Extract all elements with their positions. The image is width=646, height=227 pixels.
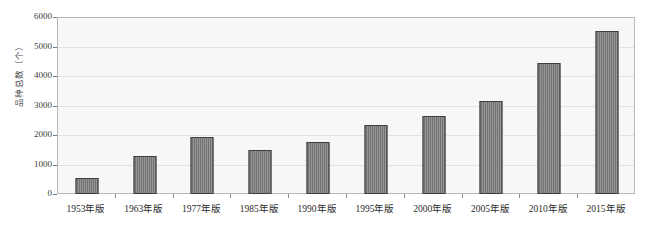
y-axis-tick-mark — [53, 165, 57, 166]
y-axis-tick-label: 0 — [0, 188, 52, 198]
y-axis-tick-mark — [53, 47, 57, 48]
y-axis-tick-label: 5000 — [0, 41, 52, 51]
bar-slot — [578, 18, 636, 194]
y-axis-tick-mark — [53, 106, 57, 107]
y-axis-tick-label: 2000 — [0, 129, 52, 139]
bar — [596, 31, 619, 194]
x-axis-tick-mark — [519, 194, 520, 198]
y-axis-tick-label: 4000 — [0, 70, 52, 80]
bar-slot — [520, 18, 578, 194]
x-axis-tick-mark — [173, 194, 174, 198]
bar — [422, 116, 445, 194]
bar — [75, 178, 98, 194]
bar — [307, 142, 330, 194]
x-axis-tick-mark — [230, 194, 231, 198]
x-axis-tick-mark — [404, 194, 405, 198]
bar-slot — [405, 18, 463, 194]
y-axis-tick-mark — [53, 76, 57, 77]
bar-slot — [289, 18, 347, 194]
y-axis-tick-label: 3000 — [0, 100, 52, 110]
y-axis-tick-mark — [53, 17, 57, 18]
bar-chart-figure: 品种总数（个） 0100020003000400050006000 1953年版… — [0, 0, 646, 227]
bar-slot — [174, 18, 232, 194]
x-axis-tick-mark — [462, 194, 463, 198]
x-axis-tick-mark — [346, 194, 347, 198]
bar — [249, 150, 272, 194]
y-axis-tick-label: 6000 — [0, 11, 52, 21]
x-axis-tick-label: 2015年版 — [571, 201, 641, 215]
bar-series — [58, 18, 634, 194]
bar — [364, 125, 387, 194]
y-axis-tick-mark — [53, 194, 57, 195]
bar — [191, 137, 214, 194]
bar — [480, 101, 503, 194]
bar — [538, 63, 561, 194]
bar-slot — [347, 18, 405, 194]
x-axis-tick-mark — [115, 194, 116, 198]
bar-slot — [116, 18, 174, 194]
bar-slot — [463, 18, 521, 194]
y-axis-tick-label: 1000 — [0, 159, 52, 169]
y-axis-tick-mark — [53, 135, 57, 136]
bar-slot — [58, 18, 116, 194]
x-axis-tick-mark — [288, 194, 289, 198]
x-axis-tick-mark — [577, 194, 578, 198]
bar-slot — [231, 18, 289, 194]
bar — [133, 156, 156, 194]
